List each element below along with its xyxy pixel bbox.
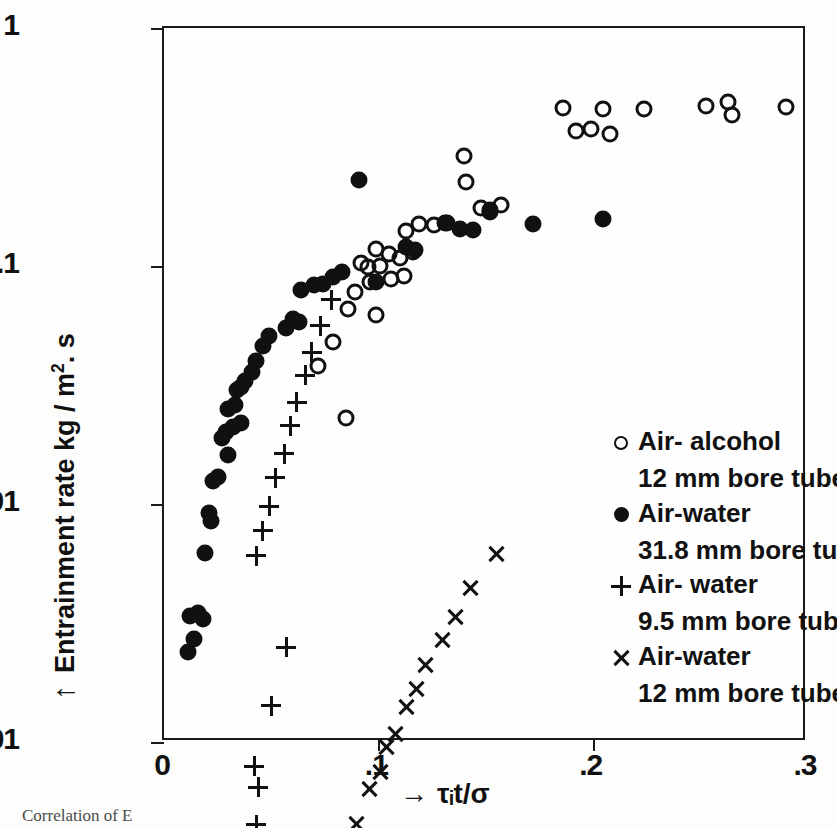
data-point-open-circle: [368, 240, 385, 257]
figure-caption: Correlation of E: [22, 806, 132, 826]
x-tick-label: .3: [793, 748, 816, 782]
legend-marker-plus: [604, 569, 638, 603]
y-tick-label: .01: [0, 484, 19, 518]
legend-label-primary: Air- water: [638, 569, 758, 600]
filled-circle-icon: [614, 507, 629, 522]
data-point-filled-circle: [293, 282, 310, 299]
up-arrow-icon: ↑: [49, 685, 79, 700]
data-point-open-circle: [398, 223, 415, 240]
data-point-open-circle: [338, 409, 355, 426]
data-point-cross: [347, 814, 367, 828]
data-point-open-circle: [368, 307, 385, 324]
data-point-cross: [407, 679, 427, 699]
cross-icon: [611, 648, 631, 668]
legend-label-secondary: 9.5 mm bore tube: [638, 606, 837, 637]
legend-item: Air- alcohol: [604, 426, 837, 460]
data-point-plus: [259, 496, 279, 516]
data-point-filled-circle: [179, 643, 196, 660]
plot-area: Air- alcohol12 mm bore tubeAir-water31.8…: [162, 26, 805, 740]
y-axis-title-text: Entrainment rate kg / m2. s: [48, 333, 81, 673]
data-point-plus: [280, 416, 300, 436]
data-point-plus: [253, 521, 273, 541]
legend-label-primary: Air-water: [638, 641, 751, 672]
data-point-cross: [486, 544, 506, 564]
data-point-plus: [302, 342, 322, 362]
data-point-plus: [246, 815, 266, 828]
y-tick-label: .1: [0, 246, 19, 280]
data-point-plus: [248, 777, 268, 797]
legend-label-primary: Air-water: [638, 498, 751, 529]
data-point-plus: [287, 392, 307, 412]
chart-figure: ↑ Entrainment rate kg / m2. s → τᵢt/σ Ai…: [0, 0, 837, 828]
data-point-open-circle: [601, 125, 618, 142]
data-point-filled-circle: [220, 401, 237, 418]
data-point-cross: [396, 697, 416, 717]
data-point-plus: [261, 696, 281, 716]
y-tick: [151, 742, 164, 744]
open-circle-icon: [614, 436, 628, 450]
legend-label-primary: Air- alcohol: [638, 426, 781, 457]
x-tick-label: .2: [579, 748, 602, 782]
data-point-cross: [460, 578, 480, 598]
data-point-open-circle: [636, 101, 653, 118]
y-axis-title: ↑ Entrainment rate kg / m2. s: [44, 0, 84, 700]
y-tick: [151, 28, 164, 30]
legend-marker-cross: [604, 641, 638, 675]
legend-label-secondary: 12 mm bore tube: [638, 463, 837, 494]
data-point-open-circle: [582, 121, 599, 138]
legend-item: Air- water: [604, 569, 837, 603]
legend-item: Air-water: [604, 641, 837, 675]
legend-marker-open-circle: [604, 426, 638, 460]
data-point-plus: [321, 290, 341, 310]
y-tick: [151, 266, 164, 268]
data-point-open-circle: [554, 100, 571, 117]
data-point-filled-circle: [368, 273, 385, 290]
data-point-plus: [295, 365, 315, 385]
data-point-open-circle: [353, 254, 370, 271]
data-point-filled-circle: [406, 241, 423, 258]
data-point-open-circle: [723, 107, 740, 124]
data-point-cross: [433, 630, 453, 650]
data-point-open-circle: [595, 101, 612, 118]
data-point-filled-circle: [464, 221, 481, 238]
legend: Air- alcohol12 mm bore tubeAir-water31.8…: [604, 426, 837, 713]
data-point-open-circle: [325, 333, 342, 350]
data-point-filled-circle: [203, 512, 220, 529]
data-point-filled-circle: [524, 216, 541, 233]
data-point-open-circle: [346, 283, 363, 300]
legend-label-secondary: 12 mm bore tube: [638, 678, 837, 709]
data-point-open-circle: [396, 267, 413, 284]
data-point-filled-circle: [205, 472, 222, 489]
y-tick-label: 1: [3, 8, 19, 42]
data-point-filled-circle: [351, 171, 368, 188]
data-point-plus: [246, 546, 266, 566]
data-point-plus: [265, 468, 285, 488]
data-point-cross: [445, 607, 465, 627]
data-point-plus: [276, 637, 296, 657]
data-point-filled-circle: [595, 210, 612, 227]
data-point-plus: [274, 444, 294, 464]
data-point-filled-circle: [481, 204, 498, 221]
plus-icon: [611, 576, 631, 596]
y-tick: [151, 504, 164, 506]
data-point-plus: [310, 316, 330, 336]
data-point-open-circle: [340, 300, 357, 317]
data-point-cross: [415, 655, 435, 675]
data-point-filled-circle: [278, 319, 295, 336]
data-point-open-circle: [777, 99, 794, 116]
data-point-filled-circle: [220, 447, 237, 464]
legend-item: Air-water: [604, 498, 837, 532]
data-point-filled-circle: [213, 429, 230, 446]
data-point-open-circle: [458, 174, 475, 191]
data-point-filled-circle: [194, 610, 211, 627]
data-point-open-circle: [456, 147, 473, 164]
x-tick-label: 0: [154, 748, 170, 782]
legend-label-secondary: 31.8 mm bore tube: [638, 535, 837, 566]
x-tick-label: .1: [365, 748, 388, 782]
data-point-plus: [244, 756, 264, 776]
data-point-open-circle: [698, 98, 715, 115]
legend-marker-filled-circle: [604, 498, 638, 532]
data-point-filled-circle: [196, 545, 213, 562]
y-tick-label: .001: [0, 722, 19, 756]
